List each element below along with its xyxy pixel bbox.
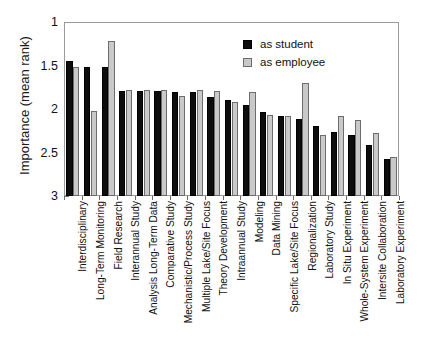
bar-employee bbox=[338, 116, 344, 196]
legend-item-employee: as employee bbox=[243, 54, 325, 70]
x-axis-label: Modeling bbox=[254, 201, 265, 242]
bar-employee bbox=[73, 67, 79, 196]
x-tick-mark bbox=[311, 196, 312, 200]
bar-group bbox=[207, 22, 220, 196]
bar-student bbox=[225, 100, 231, 196]
bar-student bbox=[190, 92, 196, 196]
bar-group bbox=[154, 22, 167, 196]
bar-student bbox=[348, 135, 354, 196]
bar-group bbox=[137, 22, 150, 196]
x-tick-mark bbox=[399, 196, 400, 200]
bar-student bbox=[296, 119, 302, 196]
x-tick-mark bbox=[64, 196, 65, 200]
bar-employee bbox=[249, 92, 255, 196]
bar-student bbox=[154, 91, 160, 196]
bar-employee bbox=[108, 41, 114, 196]
bar-group bbox=[119, 22, 132, 196]
chart-legend: as student as employee bbox=[243, 36, 325, 72]
x-axis-label: Long-Term Monitoring bbox=[95, 201, 106, 300]
bar-student bbox=[366, 145, 372, 196]
bar-group bbox=[348, 22, 361, 196]
bar-employee bbox=[179, 96, 185, 196]
x-tick-mark bbox=[328, 196, 329, 200]
bar-employee bbox=[355, 120, 361, 196]
bar-group bbox=[66, 22, 79, 196]
x-tick-mark bbox=[381, 196, 382, 200]
x-tick-mark bbox=[258, 196, 259, 200]
y-tick-label: 1.5 bbox=[18, 59, 58, 73]
x-tick-mark bbox=[187, 196, 188, 200]
x-axis-label: Theory Development bbox=[218, 201, 229, 296]
x-tick-mark bbox=[240, 196, 241, 200]
bar-employee bbox=[126, 90, 132, 196]
legend-label-student: as student bbox=[260, 38, 313, 50]
bar-employee bbox=[285, 116, 291, 196]
bars-layer bbox=[64, 22, 399, 196]
bar-employee bbox=[373, 133, 379, 196]
x-axis-label: Intersite Collaboration bbox=[377, 201, 388, 300]
x-axis-labels: InterdisciplinaryLong-Term MonitoringFie… bbox=[64, 201, 399, 345]
x-axis-label: Multiple Lake/Site Focus bbox=[201, 201, 212, 312]
bar-student bbox=[260, 112, 266, 196]
x-tick-mark bbox=[293, 196, 294, 200]
bar-student bbox=[119, 91, 125, 196]
x-axis-label: Interannual Study bbox=[130, 201, 141, 281]
bar-group bbox=[225, 22, 238, 196]
bar-student bbox=[331, 132, 337, 196]
y-tick-label: 2.5 bbox=[18, 146, 58, 160]
x-tick-mark bbox=[135, 196, 136, 200]
bar-group bbox=[384, 22, 397, 196]
x-tick-mark bbox=[170, 196, 171, 200]
bar-student bbox=[84, 67, 90, 196]
x-axis-label: Laboratory Study bbox=[324, 201, 335, 279]
legend-item-student: as student bbox=[243, 36, 325, 52]
bar-student bbox=[278, 116, 284, 196]
bar-student bbox=[313, 126, 319, 196]
bar-group bbox=[172, 22, 185, 196]
x-axis-label: In Situ Experiment bbox=[342, 201, 353, 284]
bar-student bbox=[243, 105, 249, 196]
bar-student bbox=[137, 91, 143, 196]
legend-label-employee: as employee bbox=[260, 56, 325, 68]
legend-swatch-student-icon bbox=[243, 40, 252, 49]
x-axis-label: Data Mining bbox=[271, 201, 282, 255]
x-axis-label: Mechanistic/Process Study bbox=[183, 201, 194, 323]
y-tick-label: 3 bbox=[18, 189, 58, 203]
bar-group bbox=[84, 22, 97, 196]
x-axis-label: Whole-System Experiment bbox=[359, 201, 370, 322]
x-axis-label: Interdisciplinary bbox=[77, 201, 88, 272]
chart-figure: Importance (mean rank) 11.522.53 Interdi… bbox=[0, 0, 422, 345]
bar-student bbox=[172, 92, 178, 196]
x-tick-mark bbox=[276, 196, 277, 200]
x-axis-label: Laboratory Experiment bbox=[395, 201, 406, 304]
bar-employee bbox=[161, 90, 167, 196]
x-tick-mark bbox=[223, 196, 224, 200]
bar-group bbox=[190, 22, 203, 196]
bar-employee bbox=[320, 135, 326, 196]
x-axis-label: Intraannual Study bbox=[236, 201, 247, 281]
x-tick-mark bbox=[364, 196, 365, 200]
bar-employee bbox=[197, 90, 203, 196]
x-axis-label: Specific Lake/Site Focus bbox=[289, 201, 300, 313]
y-tick-label: 1 bbox=[18, 15, 58, 29]
x-tick-mark bbox=[99, 196, 100, 200]
bar-student bbox=[384, 159, 390, 196]
bar-employee bbox=[232, 102, 238, 196]
bar-employee bbox=[267, 115, 273, 196]
bar-employee bbox=[390, 157, 396, 196]
bar-employee bbox=[144, 90, 150, 196]
x-tick-mark bbox=[152, 196, 153, 200]
x-tick-mark bbox=[82, 196, 83, 200]
bar-student bbox=[66, 61, 72, 196]
x-tick-mark bbox=[346, 196, 347, 200]
y-tick-label: 2 bbox=[18, 102, 58, 116]
x-tick-mark bbox=[205, 196, 206, 200]
x-axis-label: Regionalization bbox=[307, 201, 318, 271]
bar-employee bbox=[302, 83, 308, 196]
bar-student bbox=[207, 97, 213, 196]
legend-swatch-employee-icon bbox=[243, 58, 252, 67]
x-axis-label: Field Research bbox=[113, 201, 124, 270]
bar-employee bbox=[91, 111, 97, 196]
bar-student bbox=[102, 67, 108, 196]
x-tick-mark bbox=[117, 196, 118, 200]
